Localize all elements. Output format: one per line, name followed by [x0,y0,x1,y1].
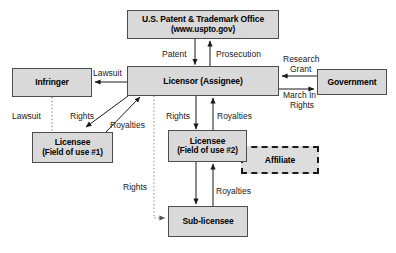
label-rights-mid: Rights [166,111,190,121]
label-rights-lower: Rights [123,182,147,192]
node-licensee-field-2-line1: Licensee [190,136,226,147]
node-affiliate-line1: Affiliate [265,155,295,166]
node-licensee-field-1[interactable]: Licensee (Field of use #1) [32,132,113,163]
label-march-in-rights-line1: March In [283,90,316,101]
label-lawsuit-top: Lawsuit [93,68,122,78]
node-infringer-line1: Infringer [35,77,69,88]
diagram-canvas: U.S. Patent & Trademark Office (www.uspt… [0,0,396,253]
node-licensee-field-2-line2: (Field of use #2) [177,146,238,157]
node-sublicensee-line1: Sub-licensee [182,216,233,227]
node-uspto-line2: (www.uspto.gov) [171,25,235,36]
label-prosecution: Prosecution [216,49,261,59]
label-royalties-lower: Royalties [216,186,251,196]
node-licensee-field-1-line2: (Field of use #1) [42,148,103,159]
node-licensee-field-2[interactable]: Licensee (Field of use #2) [168,130,247,162]
node-government-line1: Government [327,77,376,88]
node-licensor-line1: Licensor (Assignee) [163,76,242,87]
label-patent: Patent [162,49,187,59]
node-uspto[interactable]: U.S. Patent & Trademark Office (www.uspt… [127,10,279,39]
node-government[interactable]: Government [317,69,387,95]
node-licensee-field-1-line1: Licensee [55,137,91,148]
label-research-grant-line2: Grant [290,64,311,75]
edge-rights-licensor-sublicensee [154,96,165,218]
node-uspto-line1: U.S. Patent & Trademark Office [142,14,264,25]
node-sublicensee[interactable]: Sub-licensee [168,206,248,237]
node-infringer[interactable]: Infringer [12,68,92,97]
node-affiliate[interactable]: Affiliate [241,146,319,174]
label-royalties-left: Royalties [110,120,145,130]
label-lawsuit-left: Lawsuit [12,111,41,121]
label-research-grant-line1: Research [283,54,319,65]
node-licensor[interactable]: Licensor (Assignee) [127,66,279,96]
label-royalties-mid: Royalties [217,111,252,121]
label-march-in-rights-line2: Rights [290,100,314,111]
label-rights-left: Rights [70,111,94,121]
